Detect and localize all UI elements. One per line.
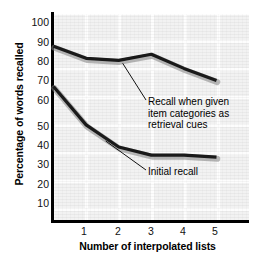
- x-tick-label: 1: [76, 226, 92, 236]
- figure-line-chart: Percentage of words recalled 100 90 80 7…: [0, 0, 260, 262]
- y-tick-label: 80: [23, 56, 49, 66]
- y-tick-label: 20: [23, 179, 49, 189]
- y-tick-label: 10: [23, 198, 49, 208]
- y-tick-label: 30: [23, 159, 49, 169]
- initial-recall-annotation: Initial recall: [148, 166, 248, 178]
- y-tick-label: 60: [23, 95, 49, 105]
- cued-recall-annotation-line: item categories as: [148, 108, 256, 120]
- cued-recall-annotation: Recall when given item categories as ret…: [148, 96, 256, 131]
- y-tick-label: 40: [23, 140, 49, 150]
- y-tick-label: 90: [23, 37, 49, 47]
- y-tick-label: 70: [23, 75, 49, 85]
- x-tick-label: 3: [143, 226, 159, 236]
- series-shadow: [54, 48, 217, 82]
- x-tick-label: 2: [110, 226, 126, 236]
- x-tick-label: 5: [207, 226, 223, 236]
- y-tick-label: 100: [23, 17, 49, 27]
- cued-recall-annotation-line: Recall when given: [148, 96, 256, 108]
- x-axis-title: Number of interpolated lists: [40, 240, 255, 252]
- cued-recall-annotation-line: retrieval cues: [148, 119, 256, 131]
- initial-recall-annotation-line: Initial recall: [148, 166, 248, 178]
- x-tick-label: 4: [175, 226, 191, 236]
- leader-line-cued-recall: [123, 63, 146, 100]
- y-tick-label: 50: [23, 121, 49, 131]
